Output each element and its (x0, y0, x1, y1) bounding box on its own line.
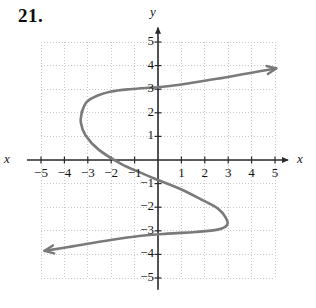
axis-lines (27, 28, 288, 290)
y-tick-label: −2 (128, 198, 154, 214)
coordinate-plane (0, 0, 316, 308)
x-tick-label: −5 (29, 165, 53, 181)
y-tick-label: −1 (128, 175, 154, 191)
x-tick-label: −2 (99, 165, 123, 181)
x-axis-label-left: x (4, 151, 10, 167)
x-tick-label: 2 (193, 165, 217, 181)
graph-figure: 21. x x y −5−4−3−2−11234554321−1−2−3−4−5 (0, 0, 316, 308)
y-tick-label: 4 (128, 57, 154, 73)
y-tick-label: 5 (128, 33, 154, 49)
x-tick-label: −3 (76, 165, 100, 181)
x-tick-label: 3 (216, 165, 240, 181)
y-tick-label: 3 (128, 80, 154, 96)
x-tick-label: 5 (263, 165, 287, 181)
y-tick-label: 1 (128, 127, 154, 143)
x-axis-label-right: x (297, 151, 303, 167)
y-tick-label: −4 (128, 245, 154, 261)
y-axis-label-top: y (150, 4, 156, 20)
y-tick-label: −5 (128, 269, 154, 285)
x-tick-label: 1 (169, 165, 193, 181)
exercise-number: 21. (18, 5, 43, 27)
y-tick-label: −3 (128, 222, 154, 238)
x-tick-label: 4 (240, 165, 264, 181)
x-tick-label: −4 (52, 165, 76, 181)
y-tick-label: 2 (128, 104, 154, 120)
